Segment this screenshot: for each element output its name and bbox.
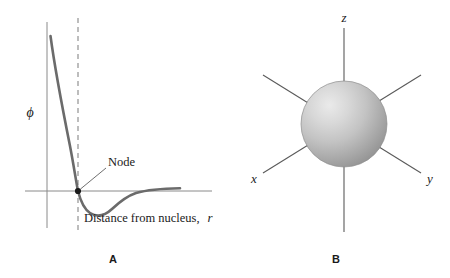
y-axis-label-b: y <box>425 171 433 186</box>
orbital-figure: ϕ Node Distance from nucleus, r A z x y … <box>0 0 450 278</box>
wave-function-curve <box>51 36 181 215</box>
orbital-sphere <box>301 81 387 167</box>
node-leader-line <box>81 168 107 189</box>
y-axis-label: ϕ <box>26 105 33 120</box>
node-annotation-label: Node <box>108 155 136 169</box>
panel-b: z x y B <box>250 10 433 265</box>
x-axis-label-b: x <box>250 171 257 186</box>
x-axis-label: Distance from nucleus, r <box>84 208 214 225</box>
panel-b-caption: B <box>332 253 340 265</box>
z-axis-label: z <box>340 10 346 25</box>
x-axis-label-variable: r <box>208 210 214 225</box>
node-point-marker <box>75 188 81 194</box>
x-axis-label-main: Distance from nucleus, <box>84 211 200 225</box>
panel-a-caption: A <box>109 253 117 265</box>
panel-a: ϕ Node Distance from nucleus, r A <box>25 18 214 265</box>
